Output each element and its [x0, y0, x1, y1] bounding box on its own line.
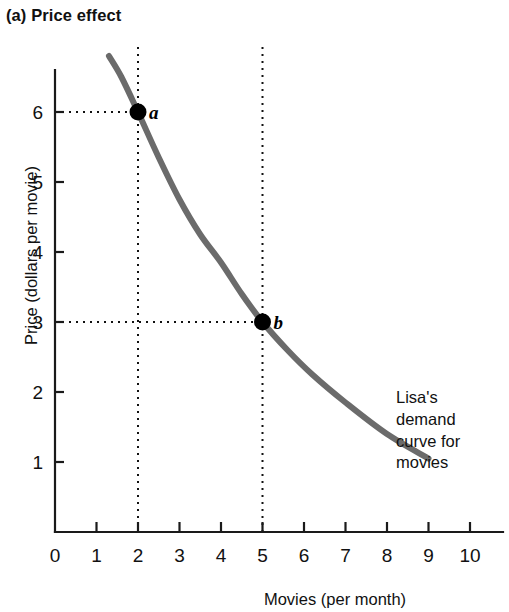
data-point-b[interactable]: [254, 314, 271, 331]
demand-curve-chart: ab 123456012345678910: [0, 0, 509, 612]
guide-lines-group: [55, 42, 263, 532]
tick-labels-group: 123456012345678910: [32, 102, 480, 566]
x-tick-label-8: 8: [382, 545, 393, 566]
x-tick-label-4: 4: [216, 545, 227, 566]
y-axis-label: Price (dollars per movie): [22, 131, 41, 381]
x-tick-label-0: 0: [50, 545, 61, 566]
demand-curve-annotation: Lisa's demand curve for movies: [396, 387, 460, 474]
x-tick-label-5: 5: [257, 545, 268, 566]
y-tick-label-2: 2: [32, 382, 43, 403]
data-point-a[interactable]: [130, 104, 147, 121]
y-tick-label-1: 1: [32, 452, 43, 473]
x-tick-label-10: 10: [459, 545, 480, 566]
x-tick-label-3: 3: [174, 545, 185, 566]
price-effect-figure: (a) Price effect ab 123456012345678910 P…: [0, 0, 509, 612]
x-tick-label-6: 6: [299, 545, 310, 566]
data-point-label-b: b: [274, 312, 284, 333]
x-tick-label-9: 9: [423, 545, 434, 566]
data-points-group: ab: [130, 102, 284, 333]
x-tick-label-2: 2: [133, 545, 144, 566]
data-point-label-a: a: [149, 102, 159, 123]
x-axis-label: Movies (per month): [264, 590, 406, 609]
y-tick-label-6: 6: [32, 102, 43, 123]
x-tick-label-1: 1: [91, 545, 102, 566]
x-tick-label-7: 7: [340, 545, 351, 566]
